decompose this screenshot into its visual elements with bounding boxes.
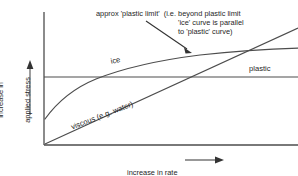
x-axis-title: increase in rate of yield (strain) xyxy=(127,152,178,176)
x-axis-arrow-icon xyxy=(185,157,224,164)
y-axis-title-line1: increase in xyxy=(0,64,6,136)
x-axis-title-line1: increase in rate xyxy=(127,169,178,176)
curve-label-plastic: plastic xyxy=(249,65,271,74)
y-axis-title: increase in applied stress xyxy=(0,64,50,136)
annotation-plastic-limit-line3: to 'plastic' curve) xyxy=(178,28,233,37)
curve-ice xyxy=(45,48,298,119)
y-axis-title-line2: applied stress xyxy=(24,64,33,136)
stress-strain-rate-diagram: approx 'plastic limit' (i.e. beyond plas… xyxy=(0,0,298,176)
